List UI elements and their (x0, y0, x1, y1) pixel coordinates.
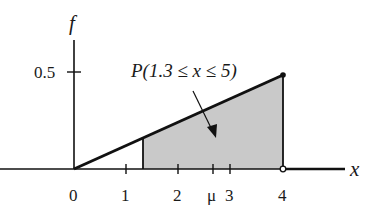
density-diagram: f x 0.5 0 1 2 μ 3 4 P(1.3 ≤ x ≤ 5) (0, 0, 370, 214)
x-tick-label-mu: μ (207, 186, 216, 205)
open-endpoint (280, 166, 286, 172)
y-tick-label: 0.5 (34, 63, 55, 82)
x-tick-label-1: 1 (121, 186, 130, 205)
x-axis-label: x (349, 157, 360, 181)
probability-annotation: P(1.3 ≤ x ≤ 5) (130, 60, 237, 82)
x-tick-label-0: 0 (69, 186, 78, 205)
filled-endpoint (280, 72, 286, 78)
shaded-probability-region (143, 75, 283, 169)
x-tick-label-4: 4 (278, 186, 287, 205)
x-tick-label-3: 3 (225, 186, 234, 205)
y-axis-label: f (69, 11, 78, 35)
x-tick-label-2: 2 (173, 186, 182, 205)
